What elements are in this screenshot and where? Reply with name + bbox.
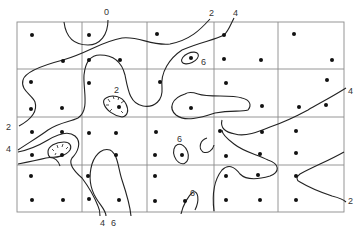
contour-2-depression-upper — [104, 96, 128, 117]
contour-6-lower — [90, 150, 131, 216]
contour-label: 4 — [6, 144, 11, 154]
contour-label: 4 — [348, 86, 353, 96]
contour-label: 2 — [114, 85, 119, 95]
contour-label: 6 — [201, 57, 206, 67]
contour-map: 0 2 4 6 2 4 6 2 4 6 2 4 6 — [0, 0, 364, 235]
contour-2-upper — [19, 19, 210, 126]
contour-4-upper — [182, 18, 234, 50]
contour-label: 2 — [348, 196, 353, 206]
contour-loop-center — [172, 93, 250, 119]
contour-label: 6 — [177, 134, 182, 144]
contour-label: 6 — [190, 188, 195, 198]
contour-right-winding — [213, 130, 277, 211]
contour-label: 0 — [104, 7, 109, 17]
contour-label: 2 — [209, 8, 214, 18]
contour-label: 4 — [233, 8, 238, 18]
contour-label: 6 — [111, 218, 116, 228]
depression-hatch-lower — [52, 144, 68, 155]
contour-label: 4 — [100, 218, 105, 228]
contour-6-right-upper-loop — [200, 138, 214, 153]
contour-depression-lower — [48, 142, 71, 157]
contour-2-middle — [18, 50, 182, 150]
contour-2-right — [297, 152, 346, 202]
contour-label: 2 — [6, 122, 11, 132]
contour-0 — [64, 20, 108, 45]
